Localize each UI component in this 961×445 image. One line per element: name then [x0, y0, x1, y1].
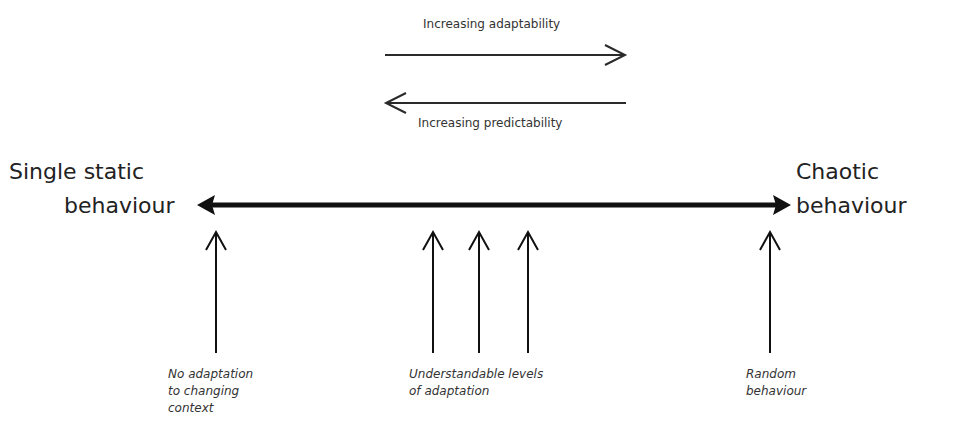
single-static-behaviour-label: behaviour: [64, 191, 175, 220]
chaotic-behaviour-label: behaviour: [796, 191, 907, 220]
chaotic-label: Chaotic: [796, 157, 879, 186]
marker-arrow-understandable-2: [469, 232, 489, 353]
diagram-canvas: Increasing adaptability Increasing predi…: [0, 0, 961, 445]
adaptability-arrow: [385, 45, 625, 65]
single-static-label: Single static: [9, 157, 144, 186]
spectrum-double-arrow: [197, 195, 791, 215]
random-behaviour-annotation: Random behaviour: [746, 366, 806, 400]
marker-arrow-no-adaptation: [206, 232, 226, 353]
predictability-arrow: [386, 93, 626, 113]
marker-arrow-random: [760, 232, 780, 353]
understandable-adaptation-annotation: Understandable levels of adaptation: [409, 366, 543, 400]
marker-arrow-understandable-1: [423, 232, 443, 353]
marker-arrow-understandable-3: [518, 232, 538, 353]
increasing-predictability-label: Increasing predictability: [418, 116, 562, 130]
no-adaptation-annotation: No adaptation to changing context: [168, 366, 253, 417]
increasing-adaptability-label: Increasing adaptability: [423, 17, 560, 31]
